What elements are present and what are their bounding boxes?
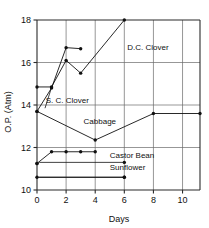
data-point-marker <box>35 85 38 88</box>
x-tick-label: 8 <box>151 195 156 205</box>
y-tick-label: 18 <box>21 15 31 25</box>
series-annotation-label: Sunflower <box>110 163 146 172</box>
data-point-marker <box>64 46 67 49</box>
data-point-marker <box>79 47 82 50</box>
x-tick-label: 6 <box>122 195 127 205</box>
data-point-marker <box>79 71 82 74</box>
data-point-marker <box>79 150 82 153</box>
data-point-marker <box>35 110 38 113</box>
chart-background <box>0 0 209 228</box>
y-tick-label: 16 <box>21 58 31 68</box>
data-point-marker <box>152 112 155 115</box>
y-tick-label: 12 <box>21 143 31 153</box>
chart-figure: 0246810 1012141618 D.C. CloverS. C. Clov… <box>0 0 209 228</box>
op-vs-days-line-chart: 0246810 1012141618 D.C. CloverS. C. Clov… <box>0 0 209 228</box>
data-point-marker <box>123 18 126 21</box>
series-annotation-label: Cabbage <box>84 117 117 126</box>
data-point-marker <box>94 138 97 141</box>
data-point-marker <box>50 86 53 89</box>
data-point-marker <box>64 59 67 62</box>
series-annotation-label: D.C. Clover <box>127 43 169 52</box>
series-annotation-label: Castor Bean <box>110 151 154 160</box>
y-tick-label: 14 <box>21 100 31 110</box>
data-point-marker <box>64 150 67 153</box>
y-axis-title: O.P. (Atm) <box>3 91 13 132</box>
data-point-marker <box>35 176 38 179</box>
x-tick-label: 0 <box>34 195 39 205</box>
x-tick-label: 2 <box>64 195 69 205</box>
series-annotation-label: S. C. Clover <box>46 96 89 105</box>
x-axis-title: Days <box>109 214 130 224</box>
data-point-marker <box>50 150 53 153</box>
x-tick-label: 4 <box>93 195 98 205</box>
x-tick-label: 10 <box>178 195 188 205</box>
data-point-marker <box>198 112 201 115</box>
y-tick-label: 10 <box>21 185 31 195</box>
data-point-marker <box>35 162 38 165</box>
data-point-marker <box>94 150 97 153</box>
